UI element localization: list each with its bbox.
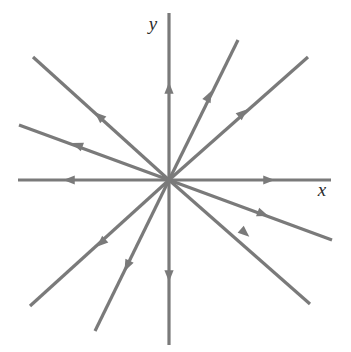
- phase-portrait-figure: y x: [0, 0, 351, 352]
- x-axis-label: x: [317, 179, 327, 200]
- y-axis-label: y: [147, 13, 158, 34]
- equilibrium-point: [166, 177, 172, 183]
- phase-portrait-canvas: y x: [0, 0, 351, 352]
